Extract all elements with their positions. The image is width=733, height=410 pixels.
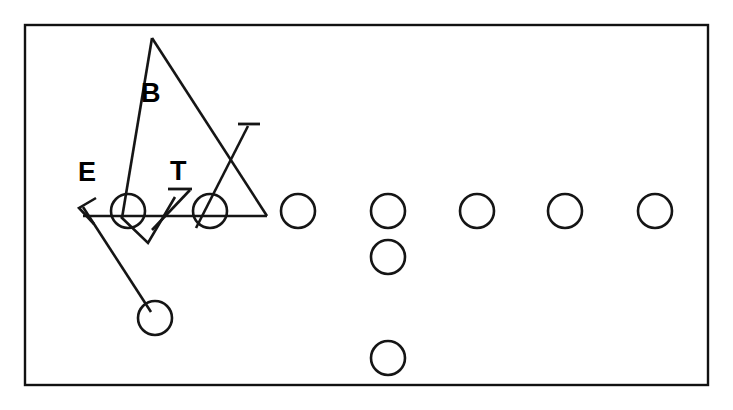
- player-circle-ol-4: [371, 194, 405, 228]
- terminator-arrowhead-left: [79, 198, 96, 224]
- route-linebacker-left-leg: [122, 38, 152, 218]
- backfield-circles: [138, 240, 405, 375]
- player-circle-ol-5: [460, 194, 494, 228]
- player-circle-ol-1: [111, 194, 145, 228]
- player-circle-back-left: [138, 301, 172, 335]
- play-diagram-svg: E B T: [0, 0, 733, 410]
- player-circle-back-middle: [371, 240, 405, 274]
- position-label-backer: B: [141, 78, 161, 108]
- route-tackle-slant: [152, 190, 190, 230]
- play-diagram-root: E B T: [0, 0, 733, 410]
- position-label-end: E: [78, 157, 96, 187]
- player-circle-ol-6: [548, 194, 582, 228]
- position-label-tackle: T: [170, 156, 187, 186]
- player-circle-ol-7: [638, 194, 672, 228]
- offensive-line-circles: [111, 194, 672, 228]
- player-circle-ol-2: [193, 194, 227, 228]
- position-labels: E B T: [78, 78, 187, 187]
- player-circle-back-deep: [371, 341, 405, 375]
- player-circle-ol-3: [281, 194, 315, 228]
